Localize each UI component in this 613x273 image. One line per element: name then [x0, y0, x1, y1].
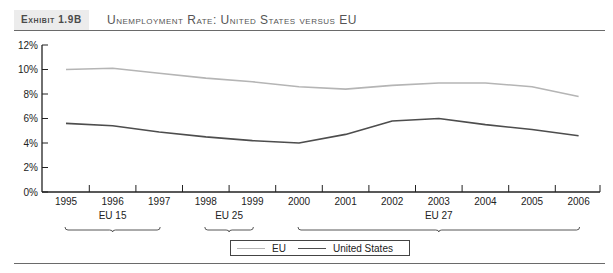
- y-tick-label: 0%: [24, 187, 39, 198]
- series-line-united-states: [66, 119, 579, 144]
- footer-rule: [14, 263, 605, 264]
- y-tick-label: 4%: [24, 138, 39, 149]
- y-tick-label: 12%: [18, 40, 38, 51]
- legend-item-eu: EU: [237, 243, 286, 254]
- x-tick-label: 2006: [567, 196, 590, 207]
- y-tick-label: 10%: [18, 64, 38, 75]
- legend-item-us: United States: [298, 243, 393, 254]
- x-tick-label: 2002: [381, 196, 404, 207]
- eu-line-swatch-icon: [237, 248, 265, 249]
- group-brace: [298, 227, 580, 232]
- x-tick-label: 2004: [474, 196, 497, 207]
- x-tick-label: 2000: [288, 196, 311, 207]
- x-tick-label: 2005: [521, 196, 544, 207]
- group-brace: [205, 227, 254, 232]
- series-line-eu: [66, 68, 579, 96]
- x-tick-label: 2001: [334, 196, 357, 207]
- x-tick-label: 1995: [55, 196, 78, 207]
- y-tick-label: 8%: [24, 89, 39, 100]
- line-chart: 0%2%4%6%8%10%12%199519961997199819992000…: [0, 0, 613, 273]
- group-label: EU 15: [99, 210, 127, 221]
- x-tick-label: 1999: [241, 196, 264, 207]
- x-tick-label: 1998: [195, 196, 218, 207]
- legend: EU United States: [230, 240, 410, 256]
- x-tick-label: 2003: [428, 196, 451, 207]
- legend-label-eu: EU: [272, 243, 286, 254]
- group-label: EU 25: [215, 210, 243, 221]
- y-tick-label: 2%: [24, 162, 39, 173]
- us-line-swatch-icon: [298, 248, 326, 249]
- x-tick-label: 1996: [101, 196, 124, 207]
- y-tick-label: 6%: [24, 113, 39, 124]
- legend-label-us: United States: [333, 243, 393, 254]
- group-brace: [65, 227, 160, 232]
- group-label: EU 27: [425, 210, 453, 221]
- x-tick-label: 1997: [148, 196, 171, 207]
